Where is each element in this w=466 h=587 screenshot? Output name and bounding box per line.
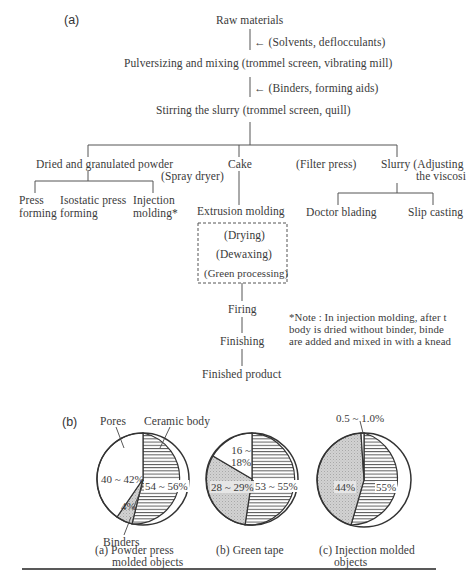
forming-press: Press forming [19, 194, 57, 220]
branch-slurry-cont: the viscosi [416, 170, 466, 183]
panel-a-label: (a) [64, 13, 79, 27]
pie-c-binders-label: 44% [334, 481, 356, 493]
panel-b-label: (b) [62, 415, 77, 429]
forming-isostatic: Isostatic press forming [60, 194, 126, 220]
branch-cake: Cake [228, 158, 252, 171]
step-finished-product: Finished product [202, 368, 281, 381]
step-finishing: Finishing [220, 335, 264, 348]
forming-extrusion: Extrusion molding [197, 205, 285, 218]
box-green-processing: (Green processing) [204, 267, 288, 280]
box-drying: (Drying) [224, 229, 265, 242]
callout-ceramic-body: Ceramic body [144, 415, 210, 428]
callout-injection-pores: 0.5 ~ 1.0% [336, 412, 384, 424]
pie-a-ceramic-label: 54 ~ 56% [144, 480, 189, 492]
pie-b-ceramic-label: 53 ~ 55% [254, 480, 299, 492]
additive-solvents: ← (Solvents, deflocculants) [254, 36, 385, 49]
forming-slip-casting: Slip casting [408, 206, 463, 219]
caption-c-line2: objects [334, 556, 367, 569]
callout-pores: Pores [100, 415, 126, 428]
note-line-3: are added and mixed in with a knead [289, 335, 451, 348]
additive-binders: ← (Binders, forming aids) [254, 82, 379, 95]
step-raw-materials: Raw materials [216, 14, 283, 27]
forming-doctor-blading: Doctor blading [306, 206, 377, 219]
pie-b-pores-label: 16 ~ 18% [231, 444, 251, 468]
box-dewaxing: (Dewaxing) [216, 248, 272, 261]
forming-injection: Injection molding* [133, 194, 178, 220]
branch-spray-dryer: (Spray dryer) [161, 170, 224, 183]
caption-a-line2: molded objects [112, 556, 183, 569]
pie-b-binders-label: 28 ~ 29% [210, 481, 255, 493]
pie-a-pores-label: 40 ~ 42% [101, 473, 144, 485]
step-firing: Firing [228, 303, 257, 316]
pie-c [317, 433, 411, 527]
step-pulverizing: Pulversizing and mixing (trommel screen,… [124, 57, 392, 70]
step-stirring: Stirring the slurry (trommel screen, qui… [156, 104, 351, 117]
pie-c-ceramic-label: 55% [375, 481, 397, 493]
caption-b: (b) Green tape [216, 544, 284, 557]
branch-filter-press: (Filter press) [296, 158, 356, 171]
pie-a-binders-label: 4% [121, 500, 136, 512]
branch-dried-powder: Dried and granulated powder [36, 158, 173, 171]
